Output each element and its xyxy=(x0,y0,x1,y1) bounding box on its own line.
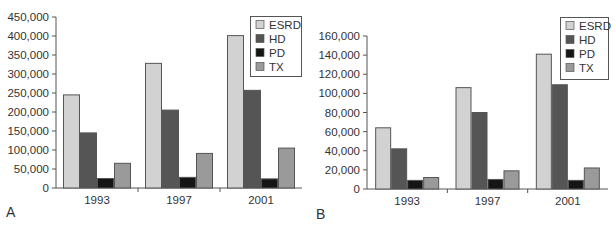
bar-tx-2001 xyxy=(584,168,599,189)
panel-label-b: B xyxy=(316,206,325,222)
y-tick-label: 140,000 xyxy=(318,49,360,61)
bar-hd-1993 xyxy=(392,149,407,189)
y-tick-label: 150,000 xyxy=(7,125,49,137)
bar-pd-1997 xyxy=(180,177,196,188)
bar-esrd-1993 xyxy=(64,95,80,188)
legend-label-hd: HD xyxy=(269,33,286,45)
legend-swatch-esrd xyxy=(566,22,574,30)
x-tick-label: 1997 xyxy=(475,195,501,207)
bar-tx-1993 xyxy=(424,178,439,189)
y-tick-label: 0 xyxy=(43,182,49,194)
legend-swatch-tx xyxy=(566,64,574,72)
chart-panel-a: 050,000100,000150,000200,000250,000300,0… xyxy=(0,0,308,228)
legend-label-tx: TX xyxy=(269,61,284,73)
bar-tx-2001 xyxy=(279,148,295,188)
y-tick-label: 450,000 xyxy=(7,11,49,23)
legend-swatch-esrd xyxy=(256,21,264,29)
x-tick-label: 1993 xyxy=(394,195,420,207)
legend-swatch-hd xyxy=(566,36,574,44)
bar-esrd-1997 xyxy=(456,88,471,189)
y-tick-label: 300,000 xyxy=(7,68,49,80)
bar-tx-1997 xyxy=(197,153,213,188)
x-tick-label: 2001 xyxy=(555,195,581,207)
y-tick-label: 80,000 xyxy=(325,107,360,119)
y-tick-label: 400,000 xyxy=(7,30,49,42)
chart-panel-b: 020,00040,00060,00080,000100,000120,0001… xyxy=(308,0,616,228)
bar-pd-1993 xyxy=(98,179,114,189)
legend-label-pd: PD xyxy=(269,47,285,59)
y-tick-label: 0 xyxy=(354,183,360,195)
bar-chart-a: 050,000100,000150,000200,000250,000300,0… xyxy=(0,0,308,228)
bar-chart-b: 020,00040,00060,00080,000100,000120,0001… xyxy=(308,0,616,228)
x-tick-label: 1993 xyxy=(84,194,110,206)
x-tick-label: 1997 xyxy=(166,194,192,206)
bar-pd-2001 xyxy=(568,180,583,189)
legend-swatch-hd xyxy=(256,35,264,43)
legend-swatch-pd xyxy=(256,49,264,57)
y-tick-label: 250,000 xyxy=(7,87,49,99)
legend-swatch-tx xyxy=(256,63,264,71)
y-tick-label: 120,000 xyxy=(318,68,360,80)
bar-esrd-1997 xyxy=(146,63,162,188)
panel-label-a: A xyxy=(6,204,15,220)
bar-hd-1993 xyxy=(81,133,97,188)
legend-label-esrd: ESRD xyxy=(579,20,611,32)
legend-label-esrd: ESRD xyxy=(269,19,301,31)
legend-label-pd: PD xyxy=(579,48,595,60)
bar-hd-2001 xyxy=(245,90,261,188)
bar-pd-2001 xyxy=(262,179,278,188)
bar-hd-1997 xyxy=(472,113,487,190)
bar-pd-1993 xyxy=(408,180,423,189)
x-tick-label: 2001 xyxy=(248,194,274,206)
legend-label-tx: TX xyxy=(579,62,594,74)
bar-tx-1997 xyxy=(504,171,519,189)
y-tick-label: 350,000 xyxy=(7,49,49,61)
y-tick-label: 160,000 xyxy=(318,30,360,42)
y-tick-label: 100,000 xyxy=(7,144,49,156)
y-tick-label: 60,000 xyxy=(325,126,360,138)
bar-esrd-1993 xyxy=(376,128,391,189)
y-tick-label: 200,000 xyxy=(7,106,49,118)
bar-hd-1997 xyxy=(163,110,179,188)
legend-swatch-pd xyxy=(566,50,574,58)
y-tick-label: 40,000 xyxy=(325,145,360,157)
bar-tx-1993 xyxy=(115,163,131,188)
y-tick-label: 20,000 xyxy=(325,164,360,176)
bar-hd-2001 xyxy=(552,85,567,189)
y-tick-label: 100,000 xyxy=(318,87,360,99)
legend-label-hd: HD xyxy=(579,34,596,46)
y-tick-label: 50,000 xyxy=(14,163,49,175)
bar-esrd-2001 xyxy=(536,54,551,189)
bar-pd-1997 xyxy=(488,179,503,189)
bar-esrd-2001 xyxy=(228,36,244,188)
